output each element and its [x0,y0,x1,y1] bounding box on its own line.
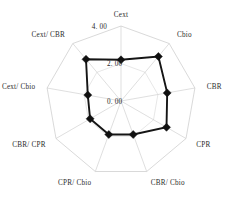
axis-label-cext-cbio: Cext/ Cbio [2,83,36,91]
data-point-cext-cbio [84,91,92,99]
data-point-cbr-cbio [129,131,137,139]
axis-label-cext: Cext [114,11,128,19]
radar-chart: Cext Cbio CBR CPR CBR/ Cbio CPR/ Cbio CB… [0,0,239,201]
data-point-cext-cbr [82,55,90,63]
tick-label-middle: 2. 00 [107,60,123,68]
tick-label-inner: 0. 00 [107,98,123,106]
axis-label-cpr: CPR [196,141,210,149]
series-polygon [86,57,167,135]
axis-label-cext-cbr: Cext/ CBR [32,31,66,39]
axis-label-cbr: CBR [207,83,222,91]
axis-label-cbio: Cbio [177,31,192,39]
radar-chart-canvas: Cext Cbio CBR CPR CBR/ Cbio CPR/ Cbio CB… [0,0,239,201]
tick-label-outer: 4. 00 [92,23,108,31]
axis-label-cbr-cpr: CBR/ CPR [12,141,45,149]
axis-label-cbr-cbio: CBR/ Cbio [151,179,185,187]
data-point-cbr [163,89,171,97]
axis-label-cpr-cbio: CPR/ Cbio [58,179,91,187]
data-point-cpr [163,123,171,131]
